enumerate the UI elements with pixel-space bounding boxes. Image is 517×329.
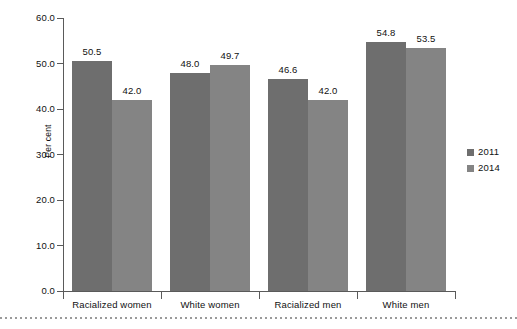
bar-value-label: 42.0: [302, 86, 354, 96]
bar-value-label: 42.0: [106, 86, 158, 96]
y-tick-mark: [57, 154, 64, 155]
x-tick-mark: [259, 291, 260, 299]
legend-item[interactable]: 2011: [467, 144, 500, 160]
bar: [366, 42, 406, 291]
y-axis-line: [63, 18, 64, 292]
bar: [210, 65, 250, 291]
y-tick-label: 50.0: [36, 59, 55, 69]
x-tick-mark: [357, 291, 358, 299]
y-tick-label: 0.0: [41, 286, 55, 296]
bar-value-label: 46.6: [262, 65, 314, 75]
y-tick-mark: [57, 63, 64, 64]
x-category-label: Racialized men: [259, 300, 357, 310]
legend-label: 2011: [478, 147, 499, 157]
y-tick-mark: [57, 245, 64, 246]
bar: [112, 100, 152, 291]
legend-item[interactable]: 2014: [467, 160, 500, 176]
x-tick-mark: [63, 291, 64, 299]
x-tick-mark: [161, 291, 162, 299]
y-tick-mark: [57, 109, 64, 110]
bar-chart-figure: 60.050.040.030.020.010.00.0 Per cent 50.…: [0, 0, 517, 329]
x-category-label: White women: [161, 300, 259, 310]
x-category-label: Racialized women: [63, 300, 161, 310]
bar: [72, 61, 112, 291]
bar: [308, 100, 348, 291]
y-tick-label: 60.0: [36, 13, 55, 23]
legend-swatch-icon: [467, 165, 474, 172]
legend-swatch-icon: [467, 149, 474, 156]
bar: [268, 79, 308, 291]
x-tick-mark: [455, 291, 456, 299]
bar: [170, 73, 210, 291]
bar-value-label: 53.5: [400, 34, 452, 44]
legend-label: 2014: [478, 163, 500, 173]
y-axis-title: Per cent: [43, 106, 53, 176]
bar-value-label: 49.7: [204, 51, 256, 61]
y-tick-mark: [57, 200, 64, 201]
bar: [406, 48, 446, 291]
y-tick-label: 10.0: [36, 241, 55, 251]
chart-legend: 20112014: [467, 144, 500, 176]
y-tick-label: 20.0: [36, 195, 55, 205]
x-category-label: White men: [357, 300, 455, 310]
bar-value-label: 50.5: [66, 47, 118, 57]
y-tick-mark: [57, 18, 64, 19]
bottom-dotted-rule: [0, 317, 517, 319]
